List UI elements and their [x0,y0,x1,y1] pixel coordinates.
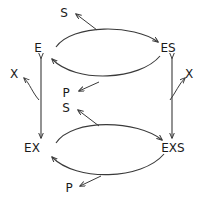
edge-s-into-bottom-cycle [78,110,99,126]
species-label-p-bottom: P [65,181,72,195]
node-label-ex: EX [24,141,40,155]
node-label-e: E [34,41,42,55]
species-label-s-top: S [60,6,68,20]
edge-es-to-e [52,56,160,76]
edge-p-out-bottom-cycle [80,176,101,186]
edge-exs-to-ex [52,154,164,175]
edge-p-out-top-cycle [79,82,99,91]
species-label-p-middle: P [62,86,69,100]
edge-ex-to-exs [56,125,162,143]
node-label-exs: EXS [161,141,184,155]
edge-s-into-top-cycle [76,14,97,30]
species-label-s-middle: S [62,101,70,115]
edge-x-out-left [24,78,39,100]
diagram-canvas: E ES EX EXS S X X P S P [0,0,202,206]
enzyme-kinetics-diagram: E ES EX EXS S X X P S P [0,0,202,206]
species-label-x-right: X [185,67,193,81]
species-label-x-left: X [10,67,18,81]
edge-e-to-es [56,29,158,47]
node-label-es: ES [160,41,175,55]
